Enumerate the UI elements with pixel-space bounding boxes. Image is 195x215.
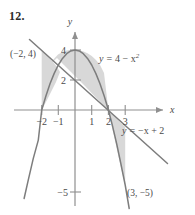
y-axis-arrow-icon	[72, 32, 78, 39]
figure-container: 12.	[0, 0, 195, 215]
line-eq-lhs: y	[121, 125, 127, 136]
x-tick-label--1: −1	[53, 116, 64, 127]
y-tick-label--5: −5	[57, 187, 68, 198]
line-eq-rhs: −x + 2	[138, 125, 164, 136]
svg-text:y=4 − x2: y=4 − x2	[98, 52, 140, 64]
parabola-eq-equals: =	[106, 53, 112, 64]
x-tick-label-1: 1	[89, 116, 94, 127]
point-label-3-minus5: (3, −5)	[127, 188, 153, 199]
x-axis-label: x	[169, 104, 175, 115]
parabola-eq-lhs: y	[98, 53, 104, 64]
point-label-minus2-4: (−2, 4)	[10, 49, 36, 60]
parabola-eq-rhs: 4 − x	[115, 53, 136, 64]
y-tick-label-4: 4	[61, 45, 66, 56]
x-tick-label-2: 2	[106, 116, 111, 127]
graph-svg: −2 −1 1 2 3 4 2 −5 x y y=4 − x2 y=−x + 2…	[0, 0, 195, 215]
y-axis-label: y	[67, 16, 73, 27]
y-tick-label-2: 2	[61, 75, 66, 86]
parabola-eq-exponent: 2	[136, 52, 140, 60]
line-eq-equals: =	[129, 125, 135, 136]
x-tick-label--2: −2	[36, 116, 47, 127]
equation-label-parabola: y=4 − x2	[98, 52, 140, 64]
x-axis-arrow-icon	[156, 107, 163, 113]
